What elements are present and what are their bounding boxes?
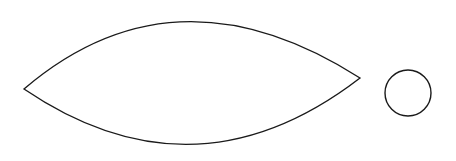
diagram-canvas xyxy=(0,0,456,161)
lens-shape xyxy=(24,22,360,145)
circle-shape xyxy=(385,70,431,116)
diagram-svg xyxy=(0,0,456,161)
